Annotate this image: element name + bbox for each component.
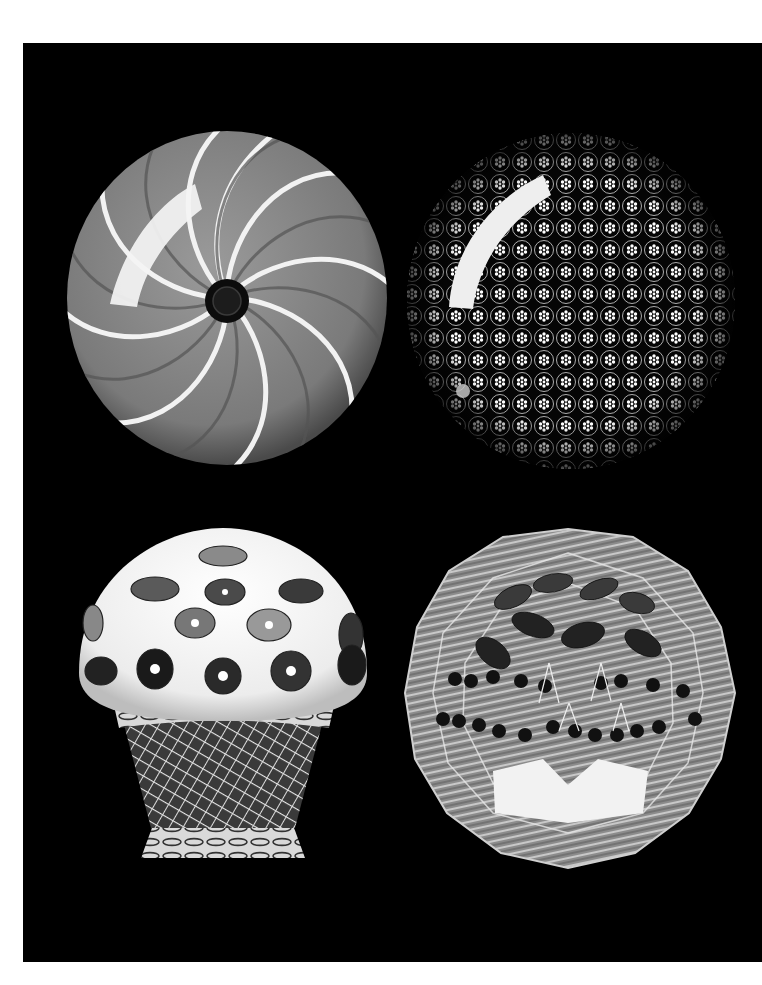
- photo-plate: [23, 43, 762, 962]
- millefiori-paperweight: [401, 129, 741, 469]
- mushroom-paperweight: [73, 513, 373, 873]
- faceted-fruit-paperweight: [403, 523, 743, 883]
- swirl-paperweight: [65, 129, 389, 467]
